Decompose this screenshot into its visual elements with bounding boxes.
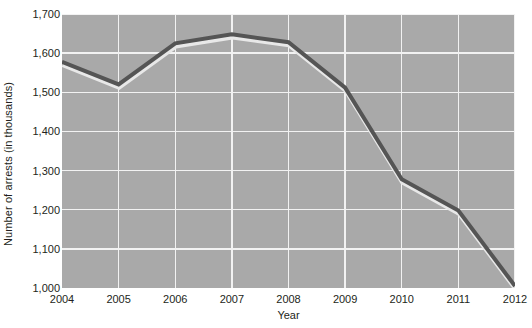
x-axis-tick-label: 2007 [220, 293, 244, 305]
x-axis-tick-label: 2004 [50, 293, 74, 305]
x-axis-tick-labels: 200420052006200720082009201020112012 [0, 0, 532, 328]
x-axis-tick-label: 2008 [276, 293, 300, 305]
x-axis-tick-label: 2011 [447, 293, 471, 305]
x-axis-tick-label: 2010 [390, 293, 414, 305]
x-axis-tick-label: 2012 [503, 293, 527, 305]
x-axis-title: Year [62, 309, 515, 321]
x-axis-tick-label: 2006 [163, 293, 187, 305]
x-axis-tick-label: 2009 [333, 293, 357, 305]
line-chart: Number of arrests (in thousands) 1,0001,… [0, 0, 532, 328]
x-axis-tick-label: 2005 [106, 293, 130, 305]
